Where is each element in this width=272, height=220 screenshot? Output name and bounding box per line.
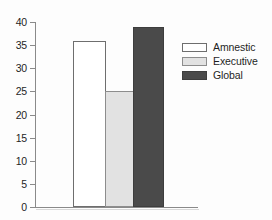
y-axis-tick-label: 15 xyxy=(0,133,27,143)
y-axis-tick-label-text: 10 xyxy=(0,156,27,166)
y-axis-tick-mark xyxy=(30,161,35,162)
legend-item-executive: Executive xyxy=(182,54,272,68)
y-axis-line xyxy=(35,22,36,208)
y-axis-tick-mark xyxy=(30,207,35,208)
y-axis-tick-label: 40 xyxy=(0,17,27,27)
y-axis-tick-mark xyxy=(30,115,35,116)
y-axis-tick-label: 5 xyxy=(0,179,27,189)
y-axis-tick-mark xyxy=(30,91,35,92)
y-axis-tick-label: 10 xyxy=(0,156,27,166)
y-axis-tick-label-text: 0 xyxy=(0,202,27,212)
y-axis-tick-label: 20 xyxy=(0,110,27,120)
legend-item-amnestic: Amnestic xyxy=(182,40,272,54)
y-axis-tick-label: 30 xyxy=(0,63,27,73)
x-axis-line xyxy=(35,207,198,208)
legend-item-global: Global xyxy=(182,68,272,82)
y-axis-tick-label-text: 15 xyxy=(0,133,27,143)
y-axis-tick-mark xyxy=(30,45,35,46)
y-axis-tick-mark xyxy=(30,22,35,23)
y-axis-tick-label-text: 35 xyxy=(0,40,27,50)
y-axis-tick-label-text: 30 xyxy=(0,63,27,73)
white-swatch-icon xyxy=(182,43,207,52)
y-axis-tick-label-text: 40 xyxy=(0,17,27,27)
bar-amnestic xyxy=(73,41,106,208)
bar-global xyxy=(133,27,164,207)
y-axis-tick-mark xyxy=(30,138,35,139)
y-axis-tick-mark xyxy=(30,68,35,69)
y-axis-tick-label-text: 25 xyxy=(0,86,27,96)
light-gray-swatch-icon xyxy=(182,57,207,66)
x-axis-shadow xyxy=(36,209,199,210)
chart-legend: AmnesticExecutiveGlobal xyxy=(182,40,272,82)
legend-item-label: Global xyxy=(213,70,243,81)
y-axis-tick-label-text: 20 xyxy=(0,110,27,120)
y-axis-tick-label-text: 5 xyxy=(0,179,27,189)
y-axis-tick-mark xyxy=(30,184,35,185)
y-axis-tick-label: 35 xyxy=(0,40,27,50)
y-axis-tick-label: 25 xyxy=(0,86,27,96)
bar-chart-figure: 4035302520151050 AmnesticExecutiveGlobal xyxy=(0,0,272,220)
legend-item-label: Executive xyxy=(213,56,258,67)
dark-gray-swatch-icon xyxy=(182,71,207,80)
legend-item-label: Amnestic xyxy=(213,42,255,53)
bar-executive xyxy=(105,91,134,207)
y-axis-tick-label: 0 xyxy=(0,202,27,212)
